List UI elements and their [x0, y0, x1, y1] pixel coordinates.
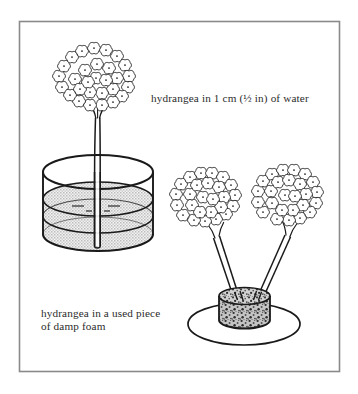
stem-submerged [95, 172, 101, 248]
caption-foam-line-1: hydrangea in a used piece [41, 307, 160, 320]
caption-hydrangea-in-water: hydrangea in 1 cm (½ in) of water [151, 92, 309, 105]
caption-foam-line-2: of damp foam [41, 320, 160, 333]
illustration-canvas [0, 0, 358, 394]
caption-water-text: hydrangea in 1 cm (½ in) of water [151, 92, 309, 104]
floral-foam-block [219, 288, 270, 329]
caption-hydrangea-in-foam: hydrangea in a used piece of damp foam [41, 307, 160, 332]
figure-container: hydrangea in 1 cm (½ in) of water hydran… [0, 0, 358, 394]
